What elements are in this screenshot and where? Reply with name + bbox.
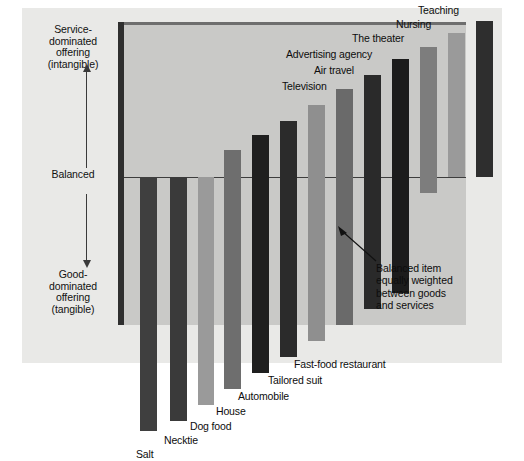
bar-advertising-agency bbox=[392, 59, 409, 293]
axis-label-good-dominated: Good- dominated offering (tangible) bbox=[28, 269, 118, 315]
plot-shell: SaltNecktieDog foodHouseAutomobileTailor… bbox=[118, 22, 466, 325]
bar-label-automobile: Automobile bbox=[238, 391, 289, 403]
bar-label-the-theater: The theater bbox=[352, 33, 404, 45]
bar-label-air-travel: Air travel bbox=[314, 65, 354, 77]
bar-label-advertising-agency: Advertising agency bbox=[286, 49, 372, 61]
y-axis-annotations: Service- dominated offering (intangible)… bbox=[28, 14, 118, 344]
annotation-arrow-icon bbox=[334, 225, 380, 265]
bar-label-salt: Salt bbox=[136, 449, 154, 461]
bar-label-tailored-suit: Tailored suit bbox=[268, 375, 322, 387]
axis-label-service-dominated: Service- dominated offering (intangible) bbox=[28, 24, 118, 70]
bar-label-house: House bbox=[216, 406, 246, 418]
axis-label-balanced: Balanced bbox=[28, 169, 118, 181]
plot-area: SaltNecktieDog foodHouseAutomobileTailor… bbox=[124, 25, 466, 325]
bar-label-necktie: Necktie bbox=[164, 435, 198, 447]
bar-label-fast-food-restaurant: Fast-food restaurant bbox=[294, 359, 386, 371]
bar-label-dog-food: Dog food bbox=[190, 421, 231, 433]
bar-tailored-suit bbox=[280, 121, 297, 357]
bar-dog-food bbox=[198, 177, 214, 405]
bar-automobile bbox=[252, 135, 269, 373]
bar-the-theater bbox=[420, 47, 437, 193]
bar-nursing bbox=[448, 33, 465, 177]
bar-label-teaching: Teaching bbox=[418, 5, 459, 17]
bar-teaching bbox=[476, 21, 493, 177]
bar-house bbox=[224, 150, 241, 389]
axis-line-upper bbox=[86, 70, 87, 168]
bar-label-nursing: Nursing bbox=[396, 19, 431, 31]
arrow-down-icon bbox=[83, 260, 91, 268]
bar-salt bbox=[140, 177, 157, 431]
bar-fast-food-restaurant bbox=[308, 105, 325, 341]
axis-line-lower bbox=[86, 194, 87, 266]
bar-television bbox=[336, 89, 353, 325]
bar-necktie bbox=[170, 177, 187, 421]
balanced-item-annotation: Balanced item equally weighted between g… bbox=[376, 262, 453, 312]
bar-label-television: Television bbox=[282, 81, 327, 93]
